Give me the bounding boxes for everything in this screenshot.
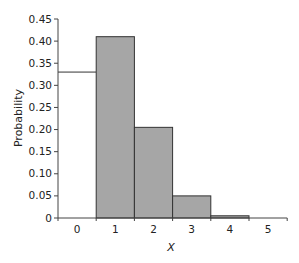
x-tick-label: 5 <box>265 223 272 235</box>
bars-group <box>58 37 249 218</box>
x-axis-ticks: 012345 <box>58 218 287 235</box>
y-tick-label: 0.40 <box>29 35 52 47</box>
y-tick-label: 0.35 <box>29 57 52 69</box>
bar-2 <box>134 127 172 218</box>
y-tick-label: 0.15 <box>29 145 52 157</box>
y-tick-label: 0.05 <box>29 189 52 201</box>
x-tick-label: 0 <box>74 223 81 235</box>
bar-3 <box>173 196 211 218</box>
x-tick-label: 1 <box>112 223 119 235</box>
bar-1 <box>96 37 134 218</box>
y-tick-label: 0.20 <box>29 123 52 135</box>
x-tick-label: 4 <box>227 223 234 235</box>
x-axis-title: X <box>166 241 175 254</box>
y-tick-label: 0.30 <box>29 79 52 91</box>
x-tick-label: 3 <box>188 223 195 235</box>
y-axis-ticks: 00.050.100.150.200.250.300.350.400.45 <box>29 13 58 224</box>
y-axis-title: Probability <box>12 88 25 147</box>
y-tick-label: 0.10 <box>29 167 52 179</box>
y-tick-label: 0 <box>45 212 52 224</box>
x-tick-label: 2 <box>150 223 157 235</box>
probability-histogram: 00.050.100.150.200.250.300.350.400.45 01… <box>0 0 299 263</box>
y-tick-label: 0.25 <box>29 101 52 113</box>
y-tick-label: 0.45 <box>29 13 52 25</box>
